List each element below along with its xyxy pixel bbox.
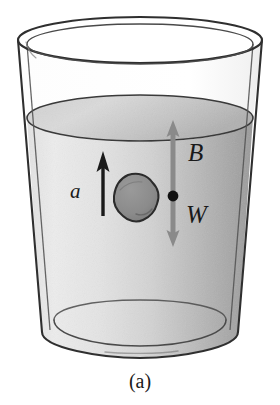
weight-label: W	[186, 202, 207, 227]
glass-illustration	[0, 0, 280, 405]
figure-glass-of-water: a B W (a)	[0, 0, 280, 405]
acceleration-label: a	[70, 181, 81, 202]
rock	[114, 174, 159, 222]
water-body	[27, 118, 253, 357]
water	[27, 95, 253, 357]
glass-rim-inner	[27, 24, 253, 64]
buoyancy-label: B	[188, 140, 203, 165]
figure-caption: (a)	[0, 370, 280, 393]
point-of-application-dot	[168, 191, 179, 202]
